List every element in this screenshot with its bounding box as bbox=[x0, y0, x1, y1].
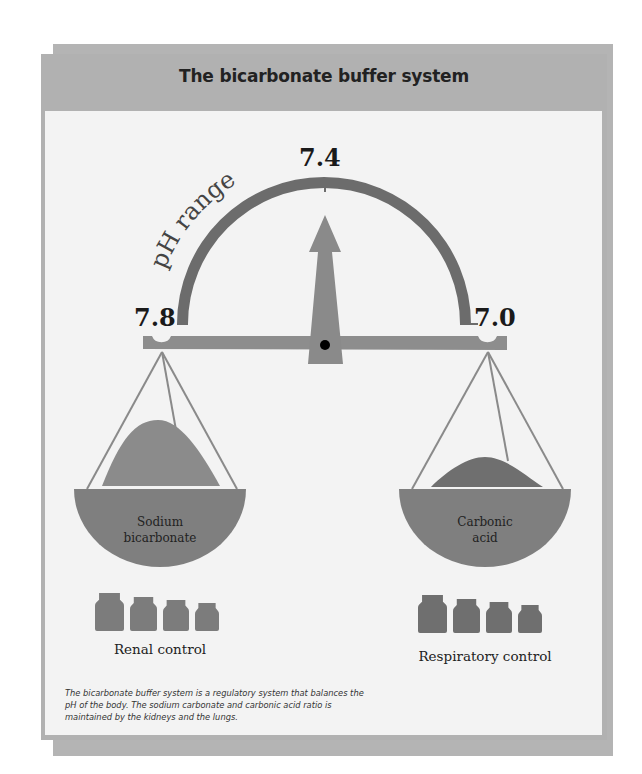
left-pan-label-line1: Sodium bbox=[100, 514, 220, 530]
ph-value-right: 7.0 bbox=[474, 303, 516, 332]
left-pan-label: Sodium bicarbonate bbox=[100, 514, 220, 546]
right-pan-label: Carbonic acid bbox=[425, 514, 545, 546]
renal-weight-3 bbox=[163, 600, 189, 631]
right-pan-label-line1: Carbonic bbox=[425, 514, 545, 530]
respiratory-weight-4 bbox=[518, 605, 542, 633]
right-pan-label-line2: acid bbox=[425, 530, 545, 546]
right-pan-contents bbox=[431, 457, 543, 487]
renal-control-label: Renal control bbox=[100, 641, 220, 657]
respiratory-weight-1 bbox=[418, 595, 447, 633]
renal-weight-1 bbox=[95, 593, 124, 631]
respiratory-control-label: Respiratory control bbox=[410, 648, 560, 664]
caption: The bicarbonate buffer system is a regul… bbox=[65, 687, 375, 723]
respiratory-weight-2 bbox=[453, 599, 480, 633]
renal-weight-2 bbox=[130, 597, 157, 631]
ph-value-left: 7.8 bbox=[134, 303, 176, 332]
ph-value-top: 7.4 bbox=[299, 143, 341, 172]
renal-weights bbox=[95, 593, 219, 631]
renal-weight-4 bbox=[195, 603, 219, 631]
pivot-dot bbox=[320, 340, 330, 350]
left-pan-label-line2: bicarbonate bbox=[100, 530, 220, 546]
respiratory-weights bbox=[418, 595, 542, 633]
respiratory-weight-3 bbox=[486, 602, 512, 633]
